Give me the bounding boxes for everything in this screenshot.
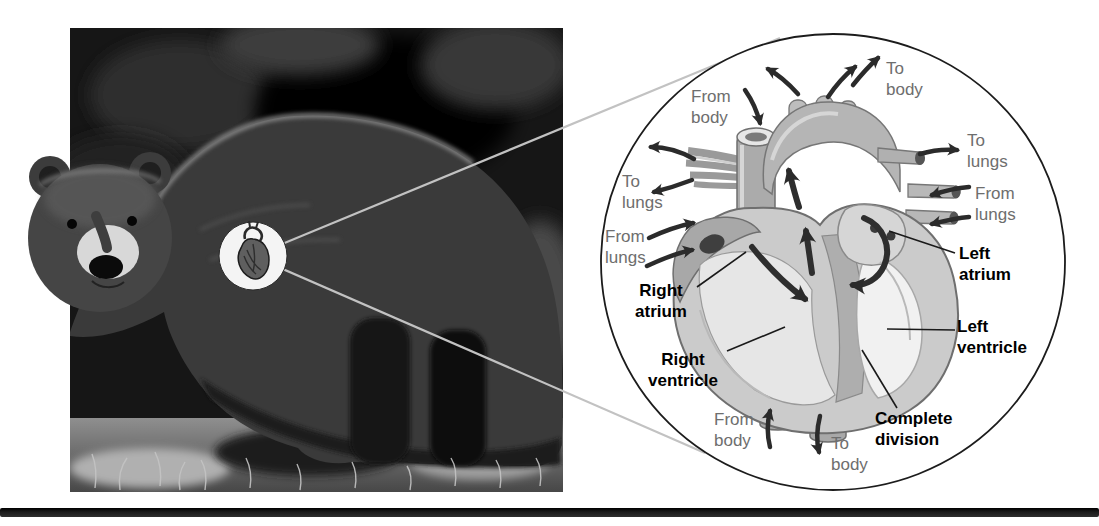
bear-photo bbox=[28, 15, 580, 492]
heart-inset-circle bbox=[219, 221, 287, 290]
label-line: To bbox=[967, 130, 1008, 151]
label-line: body bbox=[714, 430, 754, 451]
label-left-ventricle: Left ventricle bbox=[957, 316, 1027, 358]
label-line: division bbox=[875, 429, 952, 450]
label-line: From bbox=[975, 183, 1016, 204]
label-line: body bbox=[886, 79, 923, 100]
label-line: lungs bbox=[622, 192, 663, 213]
label-complete-division: Complete division bbox=[875, 408, 952, 450]
label-from-body-bottom: From body bbox=[714, 409, 754, 451]
label-line: Right bbox=[636, 349, 730, 370]
label-right-atrium: Right atrium bbox=[624, 280, 698, 322]
label-line: Left bbox=[957, 316, 1027, 337]
figure-bear-heart: From body To body To lungs From lungs To… bbox=[0, 0, 1099, 526]
label-line: From bbox=[605, 226, 646, 247]
bear-eye-left bbox=[67, 219, 77, 229]
bottom-divider-rule bbox=[0, 508, 1099, 517]
label-line: lungs bbox=[975, 204, 1016, 225]
label-line: From bbox=[691, 86, 731, 107]
label-line: From bbox=[714, 409, 754, 430]
label-line: body bbox=[831, 454, 868, 475]
label-line: lungs bbox=[967, 151, 1008, 172]
label-to-body-bottom: To body bbox=[831, 433, 868, 475]
label-line: lungs bbox=[605, 247, 646, 268]
label-to-lungs-left: To lungs bbox=[622, 171, 663, 213]
label-line: body bbox=[691, 107, 731, 128]
label-to-lungs-right: To lungs bbox=[967, 130, 1008, 172]
label-left-atrium: Left atrium bbox=[959, 243, 1011, 285]
label-line: To bbox=[622, 171, 663, 192]
label-line: To bbox=[831, 433, 868, 454]
label-line: Right bbox=[624, 280, 698, 301]
bear-nose bbox=[89, 255, 123, 279]
leader-left-ventricle bbox=[887, 329, 955, 330]
label-from-body-top: From body bbox=[691, 86, 731, 128]
label-line: atrium bbox=[959, 264, 1011, 285]
label-line: Complete bbox=[875, 408, 952, 429]
label-right-ventricle: Right ventricle bbox=[636, 349, 730, 391]
label-line: To bbox=[886, 58, 923, 79]
arrow-from-body-bottom bbox=[768, 411, 770, 447]
label-to-body-top: To body bbox=[886, 58, 923, 100]
label-line: ventricle bbox=[636, 370, 730, 391]
bear-eye-right bbox=[127, 216, 137, 226]
label-line: atrium bbox=[624, 301, 698, 322]
left-atrium-region bbox=[838, 205, 906, 266]
bear-head bbox=[28, 152, 172, 312]
label-from-lungs-right: From lungs bbox=[975, 183, 1016, 225]
label-line: Left bbox=[959, 243, 1011, 264]
label-line: ventricle bbox=[957, 337, 1027, 358]
label-from-lungs-left: From lungs bbox=[605, 226, 646, 268]
